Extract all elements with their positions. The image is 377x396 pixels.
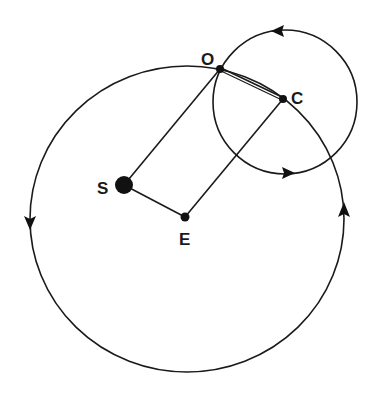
arrow-small-bottom-right-icon [282, 167, 295, 179]
label-o: O [201, 50, 214, 69]
point-e [181, 213, 190, 222]
segment-s-e [124, 185, 185, 217]
segment-s-o [124, 69, 220, 185]
point-s-sun [115, 176, 133, 194]
arrow-small-top-left-icon [271, 25, 284, 37]
label-c: C [291, 89, 303, 108]
label-s: S [97, 179, 108, 198]
point-o [216, 65, 224, 73]
segment-e-c [185, 99, 283, 217]
orbit-diagram: O C S E [0, 0, 377, 396]
segment-o-c-double [220, 68, 283, 101]
label-e: E [179, 230, 190, 249]
point-c [279, 95, 287, 103]
